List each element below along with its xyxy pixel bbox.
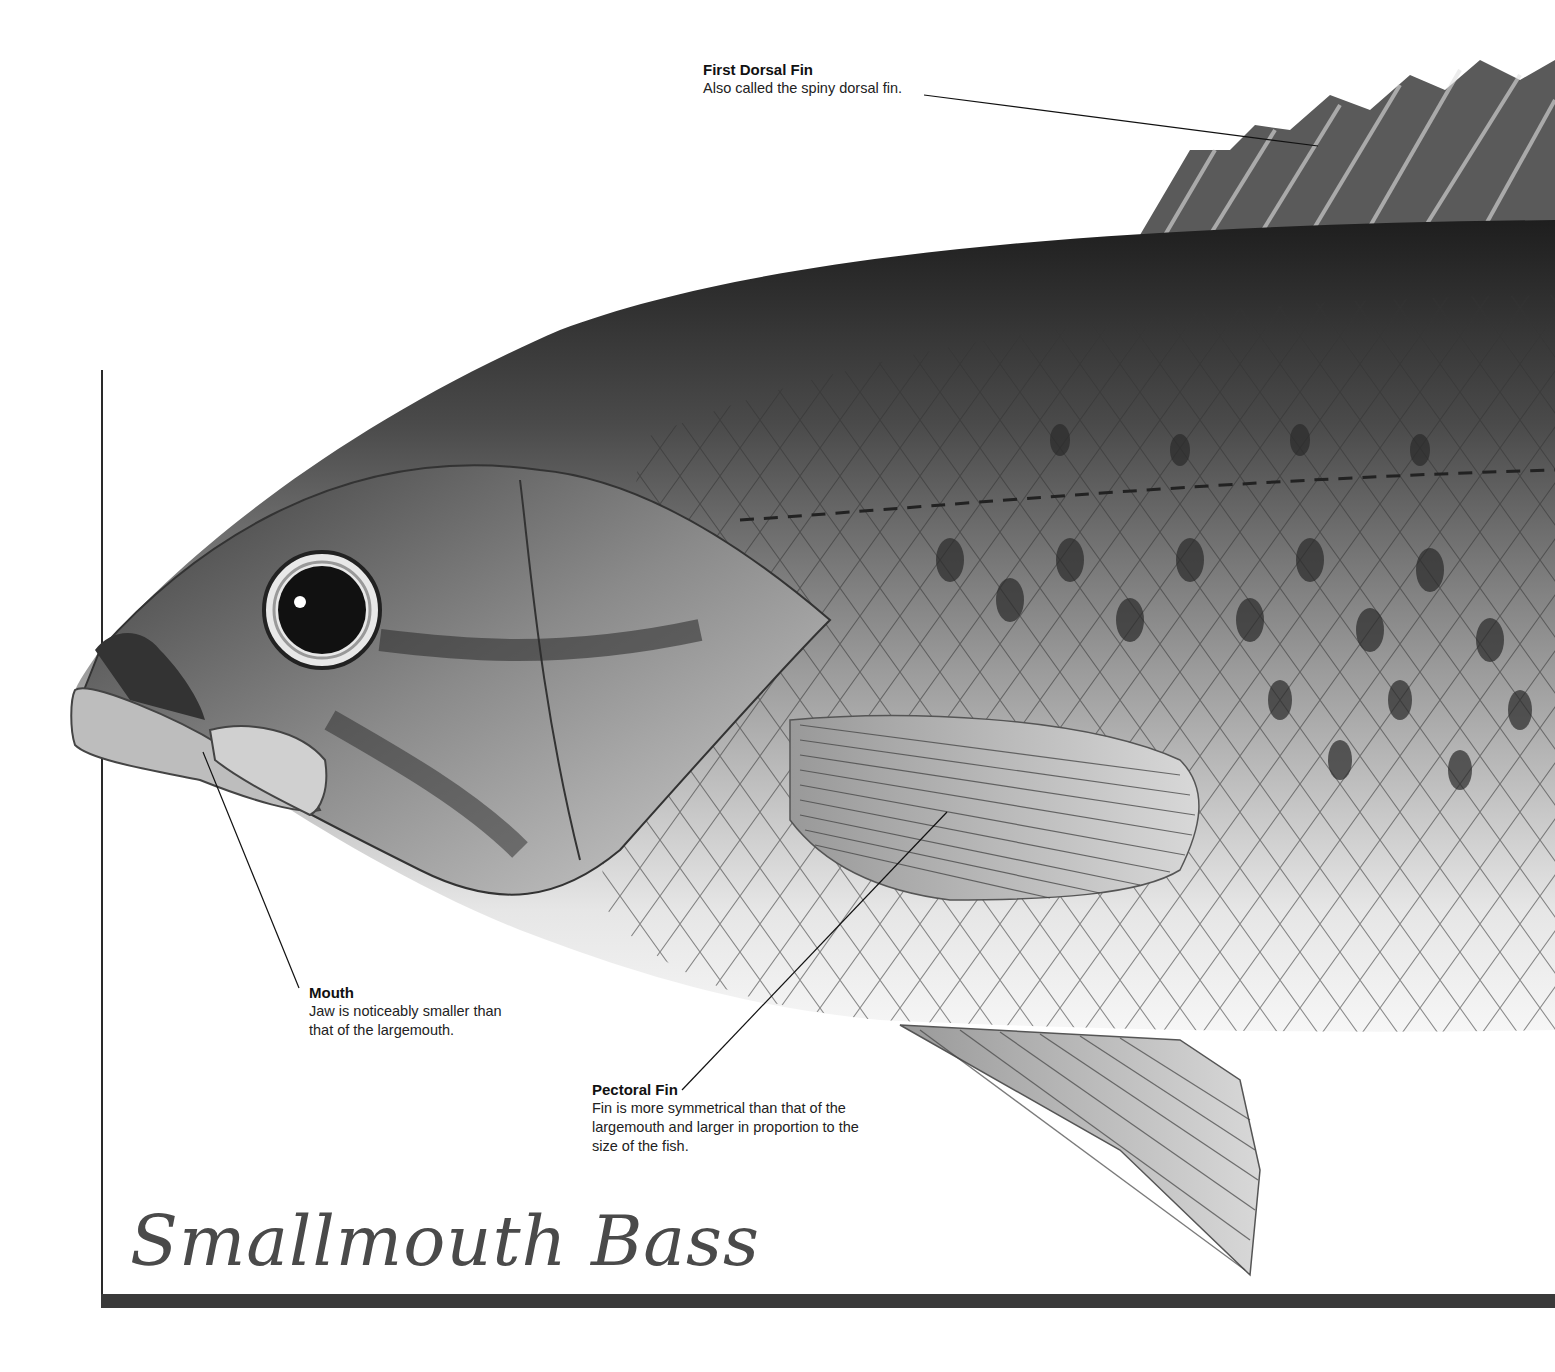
label-description-line: Jaw is noticeably smaller than [309,1002,502,1021]
label-title: First Dorsal Fin [703,60,902,79]
label-description-line: Fin is more symmetrical than that of the [592,1099,859,1118]
pelvic-fin [900,1025,1260,1275]
fish-illustration [0,0,1555,1372]
label-description: Also called the spiny dorsal fin. [703,79,902,98]
page-title: Smallmouth Bass [130,1200,760,1282]
label-first-dorsal-fin: First Dorsal Fin Also called the spiny d… [703,60,902,98]
label-description-line: that of the largemouth. [309,1021,502,1040]
label-description-line: largemouth and larger in proportion to t… [592,1118,859,1137]
label-title: Mouth [309,983,502,1002]
dorsal-fin [1140,60,1555,235]
label-mouth: Mouth Jaw is noticeably smaller than tha… [309,983,502,1040]
bottom-rule [101,1294,1555,1308]
fish-eye [264,552,380,668]
label-pectoral-fin: Pectoral Fin Fin is more symmetrical tha… [592,1080,859,1156]
label-description-line: size of the fish. [592,1137,859,1156]
label-title: Pectoral Fin [592,1080,859,1099]
